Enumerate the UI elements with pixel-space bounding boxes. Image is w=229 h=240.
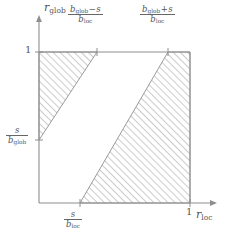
fraction-bglob-plus-s-over-bloc: bglob+s bloc [140,5,175,25]
fraction-denominator: bglob [6,136,28,145]
x-axis-label-sub: loc [201,213,212,222]
fraction-bglob-minus-s-over-bloc: bglob−s bloc [68,5,103,25]
fraction-s-over-bloc: s bloc [64,210,82,229]
denominator-sub: loc [71,223,80,229]
ytick-one-label: 1 [25,45,31,56]
fraction-numerator: bglob−s [68,5,103,15]
denominator-sub: glob [13,139,26,145]
y-axis-label: rglob [44,2,66,14]
y-axis-label-sub: glob [49,6,65,15]
ytick-s-over-bglob-label: s bglob [6,126,28,145]
region-lower-right-hatched [80,52,190,203]
numerator-term: s [96,4,100,14]
fraction-s-over-bglob: s bglob [6,126,28,145]
fraction-numerator: bglob+s [140,5,175,15]
denominator-sub: loc [84,19,93,25]
figure-container: rglob rloc bglob−s bloc bglob+s bloc 1 s… [0,0,229,240]
fraction-denominator: bloc [140,15,175,24]
region-upper-left-hatched [39,52,97,140]
xtick-top-left-label: bglob−s bloc [68,5,103,25]
fraction-denominator: bloc [68,15,103,24]
fraction-denominator: bloc [64,220,82,229]
xtick-s-over-bloc-label: s bloc [64,210,82,229]
xtick-one-label: 1 [186,207,192,218]
plot-svg [0,0,229,240]
numerator-term: s [168,4,172,14]
xtick-top-right-label: bglob+s bloc [140,5,175,25]
x-axis-label: rloc [196,209,212,221]
denominator-sub: loc [156,19,165,25]
